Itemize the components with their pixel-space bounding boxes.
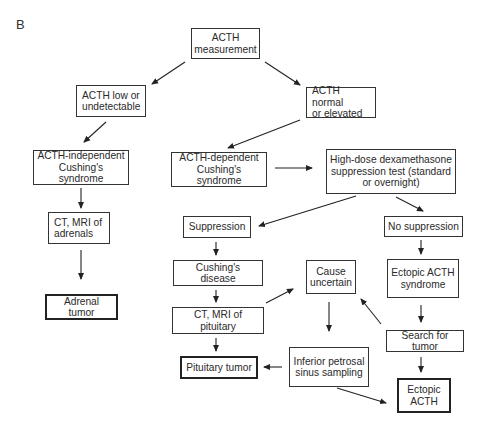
node-ct-mri-pituitary: CT, MRI of pituitary	[172, 307, 264, 334]
node-pituitary-tumor: Pituitary tumor	[180, 356, 258, 379]
arrow-measurement-to-low	[152, 62, 185, 84]
node-no-suppression: No suppression	[384, 216, 463, 237]
node-ectopic-acth-syndrome: Ectopic ACTH syndrome	[387, 259, 459, 298]
node-dexamethasone-test: High-dose dexamethasone suppression test…	[326, 149, 456, 194]
node-acth-dependent: ACTH-dependent Cushing's syndrome	[171, 152, 267, 187]
node-ectopic-acth: Ectopic ACTH	[397, 378, 451, 413]
node-search-for-tumor: Search for tumor	[386, 330, 464, 352]
node-adrenal-tumor: Adrenal tumor	[45, 294, 118, 320]
arrow-dexamethasone-to-suppression	[259, 196, 356, 226]
arrow-measurement-to-normal	[265, 62, 300, 85]
arrow-low-to-independent	[84, 122, 106, 142]
arrow-dexamethasone-to-no-suppression	[396, 197, 423, 211]
node-inferior-petrosal-sinus-sampling: Inferior petrosal sinus sampling	[289, 347, 369, 387]
node-cushings-disease: Cushing's disease	[173, 260, 263, 286]
node-cause-uncertain: Cause uncertain	[306, 260, 356, 294]
node-acth-measurement: ACTH measurement	[191, 28, 260, 59]
arrow-ct-pituitary-to-cause-uncertain	[266, 289, 293, 303]
arrow-normal-to-dependent	[228, 120, 300, 148]
node-acth-normal: ACTH normal or elevated	[306, 87, 376, 118]
node-ct-mri-adrenals: CT, MRI of adrenals	[48, 212, 110, 244]
node-suppression: Suppression	[183, 216, 251, 238]
node-acth-independent: ACTH-independent Cushing's syndrome	[33, 150, 129, 185]
node-acth-low: ACTH low or undetectable	[76, 85, 146, 117]
arrow-ipss-to-ectopic-acth	[337, 388, 386, 403]
arrow-search-to-cause-uncertain	[361, 299, 381, 324]
